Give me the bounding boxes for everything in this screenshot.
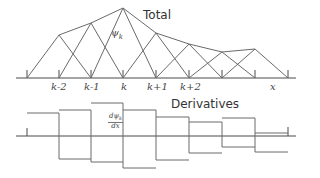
node-label-k-minus-1: k-1 [84,82,100,92]
total-label: Total [143,9,171,21]
derivatives-label: Derivatives [171,98,239,110]
x-axis-label: x [270,82,276,92]
numerator-text: dψ [109,112,119,120]
basis-psi-label: ψk [111,28,123,41]
psi-symbol: ψ [111,27,119,38]
psi-subscript: k [119,33,123,41]
node-label-k-plus-2: k+2 [180,82,201,92]
node-label-k-plus-1: k+1 [147,82,168,92]
node-label-k: k [121,82,127,92]
node-label-k-minus-2: k-2 [51,82,67,92]
derivative-fraction-label: dψk dx [108,113,123,130]
numerator-subscript: k [119,115,122,121]
fraction-denominator: dx [108,123,123,130]
